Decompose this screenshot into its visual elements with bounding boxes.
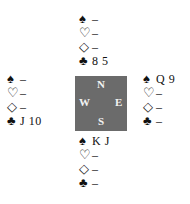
north-hand: ♠– ♡– ◇– ♣8 5: [79, 12, 109, 68]
north-hearts-cards: –: [92, 26, 99, 40]
club-icon: ♣: [143, 114, 156, 128]
east-spades-cards: Q 9: [156, 72, 175, 86]
spade-icon: ♠: [143, 72, 156, 86]
east-diamonds-cards: –: [156, 100, 163, 114]
diamond-icon: ◇: [79, 40, 92, 54]
east-diamonds-row: ◇–: [143, 100, 175, 114]
west-diamonds-cards: –: [20, 100, 27, 114]
east-hearts-cards: –: [156, 86, 163, 100]
east-clubs-row: ♣–: [143, 114, 175, 128]
diamond-icon: ◇: [143, 100, 156, 114]
south-clubs-row: ♣–: [79, 176, 110, 190]
diamond-icon: ◇: [79, 162, 92, 176]
spade-icon: ♠: [7, 72, 20, 86]
heart-icon: ♡: [79, 26, 92, 40]
east-clubs-cards: –: [156, 114, 163, 128]
west-hearts-cards: –: [20, 86, 27, 100]
south-hearts-cards: –: [92, 148, 99, 162]
heart-icon: ♡: [143, 86, 156, 100]
south-diamonds-cards: –: [92, 162, 99, 176]
north-diamonds-row: ◇–: [79, 40, 109, 54]
west-spades-row: ♠–: [7, 72, 42, 86]
compass-table: N W E S: [75, 76, 127, 131]
south-spades-row: ♠K J: [79, 134, 110, 148]
spade-icon: ♠: [79, 12, 92, 26]
west-hand: ♠– ♡– ◇– ♣J 10: [7, 72, 42, 128]
heart-icon: ♡: [79, 148, 92, 162]
south-clubs-cards: –: [92, 176, 99, 190]
diamond-icon: ◇: [7, 100, 20, 114]
compass-north-label: N: [97, 78, 105, 90]
compass-east-label: E: [115, 96, 122, 108]
east-hand: ♠Q 9 ♡– ◇– ♣–: [143, 72, 175, 128]
east-hearts-row: ♡–: [143, 86, 175, 100]
south-hearts-row: ♡–: [79, 148, 110, 162]
heart-icon: ♡: [7, 86, 20, 100]
north-hearts-row: ♡–: [79, 26, 109, 40]
north-spades-row: ♠–: [79, 12, 109, 26]
north-spades-cards: –: [92, 12, 99, 26]
club-icon: ♣: [79, 54, 92, 68]
south-diamonds-row: ◇–: [79, 162, 110, 176]
south-hand: ♠K J ♡– ◇– ♣–: [79, 134, 110, 190]
east-spades-row: ♠Q 9: [143, 72, 175, 86]
spade-icon: ♠: [79, 134, 92, 148]
club-icon: ♣: [7, 114, 20, 128]
west-spades-cards: –: [20, 72, 27, 86]
compass-south-label: S: [98, 115, 104, 127]
north-clubs-cards: 8 5: [92, 54, 109, 68]
north-diamonds-cards: –: [92, 40, 99, 54]
west-diamonds-row: ◇–: [7, 100, 42, 114]
club-icon: ♣: [79, 176, 92, 190]
west-clubs-cards: J 10: [20, 114, 42, 128]
west-hearts-row: ♡–: [7, 86, 42, 100]
west-clubs-row: ♣J 10: [7, 114, 42, 128]
south-spades-cards: K J: [92, 134, 110, 148]
compass-west-label: W: [79, 96, 90, 108]
north-clubs-row: ♣8 5: [79, 54, 109, 68]
